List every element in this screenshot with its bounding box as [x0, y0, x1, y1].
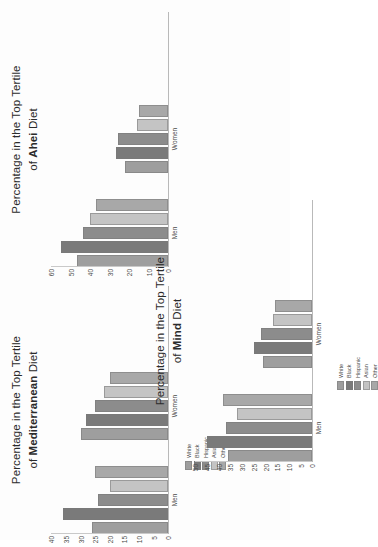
- chart-title-prefix: of: [171, 350, 183, 363]
- chart-title-line1: Percentage in the Top Tertile: [10, 65, 22, 213]
- chart-title-prefix: of: [27, 158, 39, 171]
- y-tick-label: 10: [136, 536, 143, 543]
- chart-title-suffix: Diet: [27, 108, 39, 132]
- y-tick-label: 20: [126, 269, 133, 276]
- y-tick-label: 35: [62, 536, 69, 543]
- bar[interactable]: [118, 133, 169, 145]
- bar[interactable]: [139, 105, 168, 117]
- legend-mind: WhiteBlackHispanicAsianOther: [337, 357, 378, 390]
- x-group-label: Men: [171, 494, 178, 507]
- legend-swatch: [346, 381, 353, 390]
- legend-item[interactable]: Other: [371, 357, 378, 390]
- bar[interactable]: [263, 356, 312, 368]
- y-axis-line: [195, 461, 312, 462]
- x-group-label: Men: [315, 422, 322, 435]
- chart-title-mediterranean: Percentage in the Top Tertile of Mediter…: [8, 286, 41, 534]
- bar[interactable]: [207, 436, 312, 448]
- legend-swatch: [371, 381, 378, 390]
- y-tick-label: 20: [262, 464, 269, 471]
- y-tick-label: 25: [250, 464, 257, 471]
- bar[interactable]: [237, 408, 312, 420]
- chart-title-diet-name: Ahei: [27, 132, 39, 157]
- y-tick-label: 30: [77, 536, 84, 543]
- y-tick-label: 30: [106, 269, 113, 276]
- y-tick-label: 40: [87, 269, 94, 276]
- chart-title-suffix: Diet: [27, 351, 39, 375]
- legend-item[interactable]: Hispanic: [354, 357, 361, 390]
- legend-label: Hispanic: [355, 357, 361, 378]
- chart-title-prefix: of: [27, 456, 39, 469]
- y-tick-label: 40: [48, 536, 55, 543]
- bar[interactable]: [137, 119, 168, 131]
- legend-item[interactable]: Asian: [363, 357, 370, 390]
- chart-title-line1: Percentage in the Top Tertile: [154, 257, 166, 405]
- y-tick-label: 35: [227, 464, 234, 471]
- y-tick-label: 0: [309, 464, 316, 468]
- y-axis-line: [51, 266, 168, 267]
- y-tick-label: 40: [215, 464, 222, 471]
- chart-title-ahei: Percentage in the Top Tertile of Ahei Di…: [8, 12, 41, 267]
- y-tick-label: 50: [67, 269, 74, 276]
- legend-swatch: [354, 381, 361, 390]
- bar[interactable]: [273, 314, 313, 326]
- x-group-labels-mind: MenWomen: [313, 200, 325, 462]
- chart-title-mind: Percentage in the Top Tertile of Mind Di…: [152, 200, 185, 462]
- legend-label: Other: [372, 364, 378, 378]
- y-tick-label: 30: [239, 464, 246, 471]
- plot-area-mind: 50454035302520151050 MenWomen WhiteBlack…: [195, 200, 325, 462]
- bars-mind: 50454035302520151050: [195, 200, 313, 462]
- x-group-label: Women: [315, 323, 322, 345]
- y-tick-label: 20: [106, 536, 113, 543]
- chart-title-line1: Percentage in the Top Tertile: [10, 336, 22, 484]
- bar-group: [195, 300, 312, 368]
- legend-swatch: [363, 381, 370, 390]
- bar[interactable]: [63, 508, 168, 520]
- bar-group: [51, 105, 168, 173]
- y-tick-labels-mind: 50454035302520151050: [195, 464, 312, 488]
- bar[interactable]: [110, 480, 169, 492]
- y-axis-line: [51, 533, 168, 534]
- legend-label: Asian: [363, 364, 369, 378]
- bar[interactable]: [223, 394, 312, 406]
- bar-group: [51, 466, 168, 534]
- bar-group: [51, 372, 168, 440]
- y-tick-label: 5: [150, 536, 157, 540]
- bar-group: [195, 394, 312, 462]
- chart-mind: Percentage in the Top Tertile of Mind Di…: [152, 200, 325, 462]
- y-tick-label: 5: [297, 464, 304, 468]
- y-tick-labels-mediterranean: 4035302520151050: [51, 536, 168, 547]
- y-tick-label: 15: [121, 536, 128, 543]
- y-tick-label: 0: [165, 536, 172, 540]
- bar[interactable]: [116, 147, 169, 159]
- chart-title-diet-name: Mind: [171, 323, 183, 350]
- legend-swatch: [337, 381, 344, 390]
- bar[interactable]: [226, 422, 313, 434]
- y-tick-label: 15: [274, 464, 281, 471]
- legend-item[interactable]: Black: [346, 357, 353, 390]
- y-tick-label: 25: [92, 536, 99, 543]
- bar[interactable]: [95, 466, 168, 478]
- legend-label: White: [338, 364, 344, 378]
- bar[interactable]: [254, 342, 313, 354]
- y-tick-label: 10: [285, 464, 292, 471]
- bar[interactable]: [125, 161, 168, 173]
- legend-item[interactable]: White: [337, 357, 344, 390]
- chart-title-suffix: Diet: [171, 299, 183, 323]
- legend-label: Black: [346, 365, 352, 378]
- bar[interactable]: [261, 328, 312, 340]
- x-group-label: Women: [171, 128, 178, 150]
- bar-group: [51, 199, 168, 267]
- bar[interactable]: [275, 300, 312, 312]
- chart-title-diet-name: Mediterranean: [27, 376, 39, 456]
- y-tick-label: 60: [48, 269, 55, 276]
- y-tick-label: 45: [204, 464, 211, 471]
- bar[interactable]: [98, 494, 168, 506]
- y-tick-label: 50: [192, 464, 199, 471]
